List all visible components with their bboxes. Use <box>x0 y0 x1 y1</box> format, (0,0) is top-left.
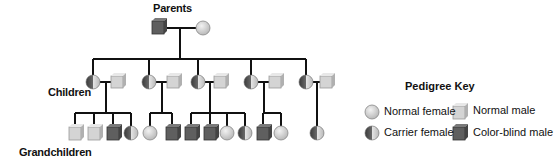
grandchildren-label: Grandchildren <box>19 146 92 158</box>
child-spouse-normal-male <box>111 73 126 88</box>
child-carrier-female <box>191 75 205 89</box>
child-spouse-normal-male <box>320 73 335 88</box>
key-colorblind-male-icon <box>453 124 468 140</box>
grandchild-colorblind-male <box>185 124 200 140</box>
grandchild-carrier-female <box>124 126 138 140</box>
key-carrier-female-label: Carrier female <box>384 126 454 138</box>
key-colorblind-male-label: Color-blind male <box>473 126 553 138</box>
key-normal-female-label: Normal female <box>384 105 456 117</box>
grandchild-colorblind-male <box>166 124 181 140</box>
grandchild-normal-male <box>88 124 103 140</box>
pedigree-key-title: Pedigree Key <box>405 80 475 92</box>
grandchild-normal-female <box>143 126 157 140</box>
parent-father-colorblind-male <box>152 18 167 34</box>
grandchild-carrier-female <box>310 126 324 140</box>
child-carrier-female <box>244 75 258 89</box>
child-spouse-normal-male <box>269 73 284 88</box>
key-normal-male-label: Normal male <box>473 104 535 116</box>
grandchild-colorblind-male <box>204 124 219 140</box>
child-spouse-normal-male <box>214 73 229 88</box>
grandchild-colorblind-male <box>107 124 122 140</box>
grandchild-colorblind-male <box>257 124 272 140</box>
grandchild-carrier-female <box>238 126 252 140</box>
children-label: Children <box>48 86 91 98</box>
key-carrier-female-icon <box>365 126 379 140</box>
child-spouse-normal-male <box>167 73 182 88</box>
parent-mother-normal-female <box>196 21 210 35</box>
grandchild-normal-male <box>69 124 84 140</box>
parents-label: Parents <box>153 2 192 14</box>
child-carrier-female <box>299 75 313 89</box>
grandchild-normal-female <box>220 126 234 140</box>
key-normal-female-icon <box>365 105 379 119</box>
child-carrier-female <box>142 75 156 89</box>
grandchild-normal-female <box>274 126 288 140</box>
grandchildren-row <box>69 124 324 140</box>
